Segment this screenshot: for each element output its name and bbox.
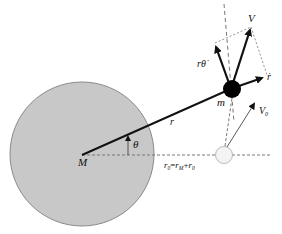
local-vertical-dashed — [224, 4, 234, 122]
orbiting-body — [223, 80, 241, 98]
label-velocity: V — [248, 12, 256, 24]
label-tangential-velocity: rθ̇ — [197, 58, 209, 69]
parallelogram-right — [251, 27, 267, 75]
initial-to-m-dashed — [225, 98, 232, 146]
label-initial-radius: r0=rM+r0 — [164, 160, 195, 171]
orbit-diagram: M m r θ V rθ̇ ṙ V0 r0=rM+r0 — [0, 0, 282, 234]
diagram-canvas: M m r θ V rθ̇ ṙ V0 r0=rM+r0 — [0, 0, 282, 234]
label-orbiting-mass: m — [217, 96, 225, 108]
label-radius: r — [170, 116, 174, 127]
initial-velocity-arrow — [227, 104, 254, 147]
initial-body — [216, 147, 233, 164]
label-initial-velocity: V0 — [259, 105, 268, 117]
label-angle: θ — [133, 138, 139, 150]
label-central-mass: M — [77, 156, 88, 168]
velocity-arrow — [232, 30, 250, 86]
label-radial-velocity: ṙ — [267, 71, 271, 82]
